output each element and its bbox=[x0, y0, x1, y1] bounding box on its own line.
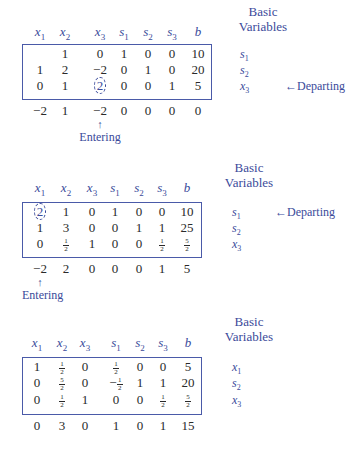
cell: 1 bbox=[135, 63, 161, 77]
cell: 0 bbox=[27, 79, 53, 93]
basic-variable: s1 bbox=[240, 47, 249, 63]
column-header-x2: x2 bbox=[60, 24, 70, 42]
objective-cell: 1 bbox=[149, 262, 175, 276]
pivot-circle: 2 bbox=[34, 203, 47, 220]
objective-cell: 1 bbox=[103, 419, 129, 433]
cell: 0 bbox=[102, 237, 128, 251]
cell: 1 bbox=[52, 79, 78, 93]
column-header-s3: s3 bbox=[167, 24, 177, 42]
column-header-s1: s1 bbox=[119, 24, 129, 42]
column-header-s1: s1 bbox=[110, 180, 120, 198]
cell: 0 bbox=[72, 376, 98, 390]
cell: 1 bbox=[27, 63, 53, 77]
cell: −12 bbox=[103, 376, 129, 392]
column-header-x2: x2 bbox=[57, 335, 67, 353]
basic-variables-title: BasicVariables bbox=[228, 4, 298, 34]
cell: 1 bbox=[72, 393, 98, 407]
entering-label: Entering bbox=[22, 288, 63, 303]
basic-variable: s1 bbox=[232, 205, 241, 221]
column-header-s2: s2 bbox=[135, 335, 145, 353]
fraction: 12 bbox=[159, 238, 165, 253]
objective-cell: −2 bbox=[27, 104, 53, 118]
cell: 20 bbox=[185, 63, 211, 77]
objective-cell: 5 bbox=[174, 262, 200, 276]
pivot-circle: 2 bbox=[94, 77, 107, 94]
cell: 10 bbox=[174, 205, 200, 219]
departing-label: ←Departing bbox=[275, 205, 335, 220]
basic-variables-title: BasicVariables bbox=[214, 160, 284, 190]
cell: 12 bbox=[150, 393, 176, 409]
cell: 0 bbox=[24, 376, 50, 390]
fraction: 12 bbox=[63, 238, 69, 253]
column-header-x2: x2 bbox=[61, 180, 71, 198]
cell: 12 bbox=[103, 360, 129, 376]
cell: 3 bbox=[53, 221, 79, 235]
objective-cell: 0 bbox=[135, 104, 161, 118]
objective-cell: 0 bbox=[111, 104, 137, 118]
column-header-x3: x3 bbox=[80, 335, 90, 353]
column-header-x1: x1 bbox=[32, 335, 42, 353]
entering-label: Entering bbox=[79, 130, 120, 145]
column-header-b: b bbox=[184, 180, 191, 196]
cell: 0 bbox=[27, 237, 53, 251]
cell: 0 bbox=[150, 360, 176, 374]
cell: 0 bbox=[103, 393, 129, 407]
objective-cell: 15 bbox=[175, 419, 201, 433]
column-header-s1: s1 bbox=[111, 335, 121, 353]
column-header-s2: s2 bbox=[134, 180, 144, 198]
cell: 2 bbox=[87, 79, 113, 93]
basic-variables-title: BasicVariables bbox=[214, 314, 284, 344]
objective-cell: 0 bbox=[159, 104, 185, 118]
cell: 1 bbox=[27, 221, 53, 235]
basic-variable: s2 bbox=[240, 63, 249, 79]
departing-label: ←Departing bbox=[285, 79, 345, 94]
arrow-up-icon: ↑ bbox=[37, 276, 43, 288]
cell: 1 bbox=[149, 221, 175, 235]
objective-cell: 0 bbox=[24, 419, 50, 433]
fraction: 52 bbox=[184, 238, 190, 253]
column-header-x1: x1 bbox=[35, 24, 45, 42]
objective-cell: 0 bbox=[72, 419, 98, 433]
cell: 52 bbox=[174, 237, 200, 253]
objective-cell: −2 bbox=[27, 262, 53, 276]
fraction: 12 bbox=[113, 361, 119, 376]
fraction: 12 bbox=[59, 394, 65, 409]
column-header-s2: s2 bbox=[143, 24, 153, 42]
cell: 0 bbox=[87, 47, 113, 61]
column-header-s3: s3 bbox=[158, 335, 168, 353]
objective-cell: 0 bbox=[185, 104, 211, 118]
cell: 2 bbox=[52, 63, 78, 77]
column-header-x1: x1 bbox=[35, 180, 45, 198]
objective-cell: 0 bbox=[102, 262, 128, 276]
column-header-b: b bbox=[195, 24, 202, 40]
cell: 1 bbox=[52, 47, 78, 61]
fraction: 12 bbox=[59, 361, 65, 376]
cell: 25 bbox=[174, 221, 200, 235]
cell: 52 bbox=[175, 393, 201, 409]
basic-variable: s2 bbox=[232, 221, 241, 237]
basic-variable: x3 bbox=[240, 79, 249, 95]
arrow-up-icon: ↑ bbox=[97, 118, 103, 130]
fraction: 12 bbox=[117, 377, 123, 392]
cell: 1 bbox=[24, 360, 50, 374]
cell: 0 bbox=[135, 79, 161, 93]
fraction: 52 bbox=[59, 377, 65, 392]
column-header-x3: x3 bbox=[87, 180, 97, 198]
cell: 12 bbox=[53, 237, 79, 253]
basic-variable: x3 bbox=[232, 393, 241, 409]
cell: −2 bbox=[87, 63, 113, 77]
cell: 0 bbox=[149, 205, 175, 219]
cell: 0 bbox=[111, 79, 137, 93]
cell: 0 bbox=[72, 360, 98, 374]
objective-cell: 2 bbox=[53, 262, 79, 276]
cell: 1 bbox=[53, 205, 79, 219]
cell: 5 bbox=[175, 360, 201, 374]
cell: 0 bbox=[24, 393, 50, 407]
objective-cell: −2 bbox=[87, 104, 113, 118]
objective-cell: 1 bbox=[150, 419, 176, 433]
cell: 5 bbox=[185, 79, 211, 93]
cell: 0 bbox=[159, 47, 185, 61]
cell: 20 bbox=[175, 376, 201, 390]
cell: 1 bbox=[102, 205, 128, 219]
basic-variable: x1 bbox=[232, 360, 241, 376]
